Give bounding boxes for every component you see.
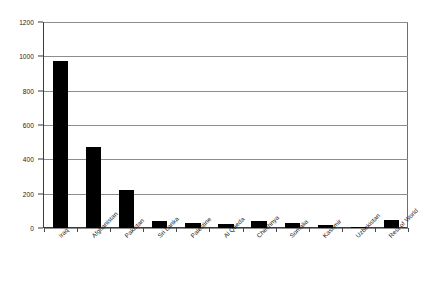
y-axis-tick-label: 400 bbox=[23, 156, 34, 163]
bar-slot bbox=[251, 22, 266, 228]
y-axis-tick bbox=[38, 56, 43, 57]
x-axis-tick bbox=[243, 228, 244, 232]
y-axis-tick bbox=[38, 125, 43, 126]
y-axis-tick bbox=[38, 22, 43, 23]
y-axis-tick bbox=[38, 159, 43, 160]
bar-slot bbox=[185, 22, 200, 228]
x-axis-tick bbox=[408, 228, 409, 232]
bar-slot bbox=[152, 22, 167, 228]
x-axis-tick bbox=[209, 228, 210, 232]
y-axis-tick-label: 200 bbox=[23, 190, 34, 197]
x-axis-labels: IraqAfghanistanPakistanSri LankaPalestin… bbox=[44, 234, 428, 284]
y-axis-tick-label: 1000 bbox=[19, 53, 34, 60]
x-axis-tick bbox=[309, 228, 310, 232]
bar-slot bbox=[384, 22, 399, 228]
y-axis-tick-label: 1200 bbox=[19, 19, 34, 26]
x-axis-tick bbox=[44, 228, 45, 232]
bar bbox=[86, 147, 101, 228]
y-axis-tick bbox=[38, 193, 43, 194]
bar bbox=[119, 190, 134, 228]
bar-slot bbox=[86, 22, 101, 228]
x-axis-tick bbox=[77, 228, 78, 232]
bar-slot bbox=[285, 22, 300, 228]
x-axis-tick bbox=[342, 228, 343, 232]
bars-layer bbox=[44, 22, 408, 228]
bar bbox=[53, 61, 68, 228]
x-axis-tick bbox=[143, 228, 144, 232]
x-axis-tick bbox=[110, 228, 111, 232]
bar-chart: 020040060080010001200 IraqAfghanistanPak… bbox=[0, 0, 428, 284]
y-axis: 020040060080010001200 bbox=[0, 0, 43, 284]
x-axis-tick bbox=[176, 228, 177, 232]
bar-slot bbox=[351, 22, 366, 228]
y-axis-tick-label: 0 bbox=[30, 225, 34, 232]
bar-slot bbox=[119, 22, 134, 228]
bar-slot bbox=[318, 22, 333, 228]
y-axis-tick-label: 600 bbox=[23, 122, 34, 129]
x-axis-tick bbox=[276, 228, 277, 232]
y-axis-tick bbox=[38, 228, 43, 229]
y-axis-tick bbox=[38, 90, 43, 91]
bar-slot bbox=[218, 22, 233, 228]
bar-slot bbox=[53, 22, 68, 228]
x-axis-tick bbox=[375, 228, 376, 232]
y-axis-tick-label: 800 bbox=[23, 87, 34, 94]
